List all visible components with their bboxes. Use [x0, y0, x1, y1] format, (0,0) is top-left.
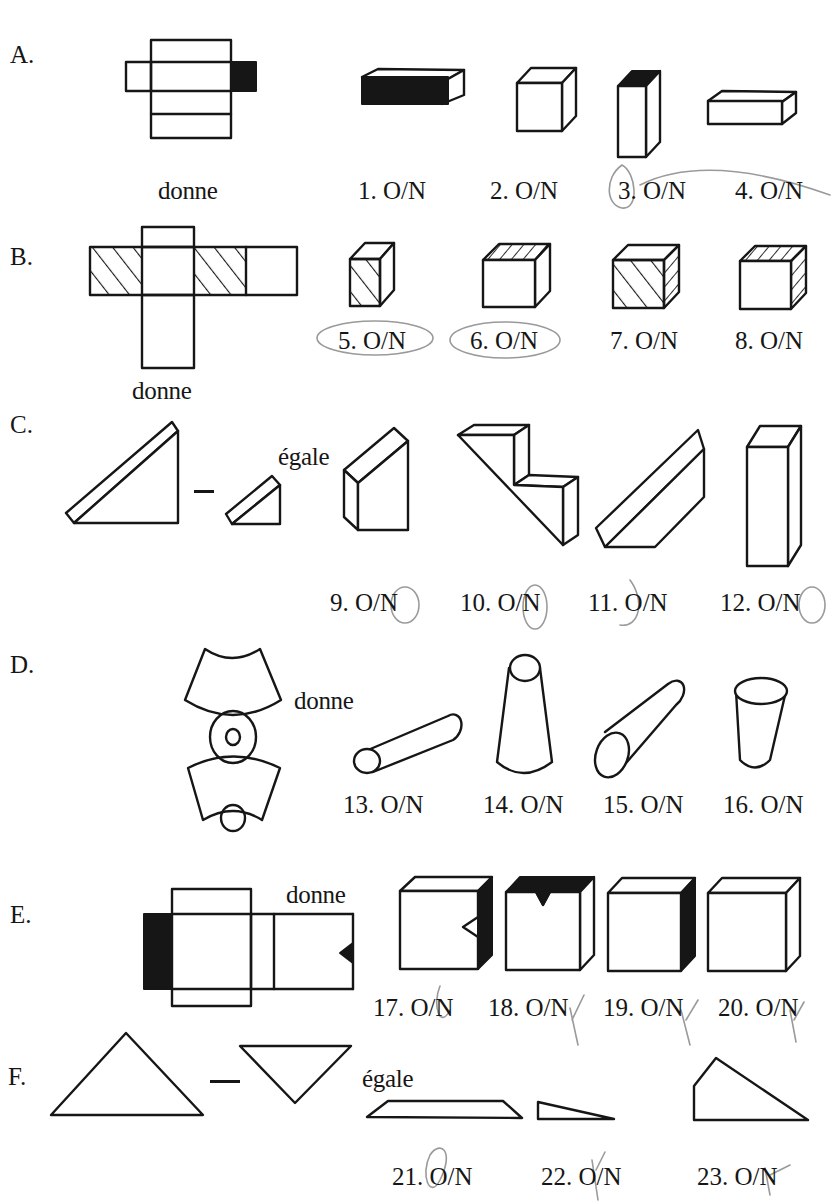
minus-sign-f: [210, 1080, 240, 1083]
solid-15: [589, 681, 684, 782]
cube-5: [350, 243, 394, 306]
cylinder-net: [185, 649, 281, 831]
answer-item-6[interactable]: 6. O/N: [470, 328, 538, 353]
answer-item-19[interactable]: 19. O/N: [603, 995, 684, 1020]
box-3: [618, 71, 660, 157]
section-label-a: A.: [10, 42, 34, 67]
operator-word-a: donne: [158, 178, 218, 203]
section-label-f: F.: [8, 1064, 26, 1089]
answer-item-16[interactable]: 16. O/N: [723, 792, 804, 817]
solid-13: [354, 714, 461, 773]
triangle-large: [51, 1033, 203, 1115]
answer-item-4[interactable]: 4. O/N: [735, 178, 803, 203]
net-b: [90, 227, 297, 368]
operator-word-b: donne: [132, 378, 192, 403]
answer-item-15[interactable]: 15. O/N: [603, 792, 684, 817]
cube-8: [740, 246, 806, 309]
shape-12: [747, 426, 801, 566]
solid-14: [497, 655, 552, 773]
answer-item-21[interactable]: 21. O/N: [392, 1164, 473, 1189]
cube-18: [506, 877, 594, 970]
section-label-c: C.: [10, 412, 33, 437]
minus-sign-c: [194, 490, 214, 493]
answer-item-3[interactable]: 3. O/N: [618, 178, 686, 203]
answer-item-5[interactable]: 5. O/N: [338, 328, 406, 353]
answer-item-2[interactable]: 2. O/N: [490, 178, 558, 203]
net-a: [126, 40, 256, 138]
section-label-d: D.: [10, 652, 34, 677]
section-label-b: B.: [10, 244, 33, 269]
shape-23: [694, 1058, 808, 1120]
answer-item-9[interactable]: 9. O/N: [330, 590, 398, 615]
answer-item-14[interactable]: 14. O/N: [483, 792, 564, 817]
shape-21: [367, 1101, 522, 1118]
shape-10: [458, 425, 578, 545]
shape-11: [596, 430, 704, 547]
box-2: [517, 68, 576, 131]
shape-22: [538, 1102, 614, 1119]
answer-item-13[interactable]: 13. O/N: [343, 792, 424, 817]
answer-item-11[interactable]: 11. O/N: [588, 590, 668, 615]
triangle-inverted: [240, 1046, 351, 1103]
answer-item-1[interactable]: 1. O/N: [358, 178, 426, 203]
solid-16: [735, 678, 787, 768]
section-label-e: E.: [10, 902, 32, 927]
cube-19: [608, 878, 695, 971]
operator-word-d: donne: [294, 688, 354, 713]
answer-item-12[interactable]: 12. O/N: [720, 590, 801, 615]
answer-item-20[interactable]: 20. O/N: [718, 995, 799, 1020]
cube-17: [400, 877, 492, 969]
cube-6: [483, 244, 550, 307]
answer-item-22[interactable]: 22. O/N: [541, 1164, 622, 1189]
operator-word-e: donne: [286, 882, 346, 907]
cube-20: [708, 878, 800, 971]
answer-item-8[interactable]: 8. O/N: [735, 328, 803, 353]
cube-7: [613, 245, 679, 308]
box-4: [708, 91, 796, 124]
wedge-small: [226, 476, 280, 524]
answer-item-7[interactable]: 7. O/N: [610, 328, 678, 353]
operator-word-f: égale: [362, 1066, 413, 1091]
answer-item-23[interactable]: 23. O/N: [697, 1164, 778, 1189]
wedge-large: [66, 422, 178, 523]
answer-item-18[interactable]: 18. O/N: [488, 995, 569, 1020]
answer-item-17[interactable]: 17. O/N: [373, 995, 454, 1020]
answer-item-10[interactable]: 10. O/N: [460, 590, 541, 615]
operator-word-c: égale: [278, 444, 329, 469]
shape-9: [344, 428, 408, 530]
box-1: [362, 69, 464, 104]
